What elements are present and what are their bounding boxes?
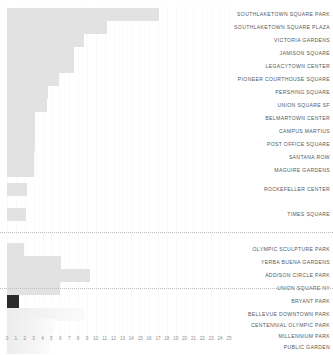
axis-tick-label: 11 — [102, 336, 107, 341]
section-separator-bottom — [0, 288, 333, 289]
plot-area — [7, 6, 229, 336]
axis-tick-label: 2 — [23, 336, 26, 341]
axis-tick-label: 4 — [41, 336, 44, 341]
axis-tick-label: 5 — [50, 336, 53, 341]
bar[interactable] — [7, 243, 24, 256]
axis-tick-label: 14 — [129, 336, 134, 341]
bar-label: YERBA BUENA GARDENS — [261, 256, 330, 269]
bar-label: BELMARTOWN CENTER — [265, 112, 330, 125]
bar[interactable] — [7, 151, 34, 164]
axis-tick-label: 15 — [138, 336, 143, 341]
table-row[interactable] — [7, 8, 229, 21]
bar-label: ADDISON CIRCLE PARK — [265, 269, 330, 282]
axis-tick-label: 16 — [147, 336, 152, 341]
axis-tick-label: 17 — [155, 336, 160, 341]
table-row[interactable] — [7, 208, 229, 221]
gridline — [229, 6, 230, 336]
bar[interactable] — [7, 295, 19, 308]
axis-tick-label: 22 — [200, 336, 205, 341]
axis-tick-label: 18 — [164, 336, 169, 341]
axis-tick-label: 0 — [6, 336, 9, 341]
bar-label: OLYMPIC SCULPTURE PARK — [253, 243, 330, 256]
bar[interactable] — [7, 99, 47, 112]
axis-tick-label: 23 — [209, 336, 214, 341]
table-row[interactable] — [7, 151, 229, 164]
bar-label: POST OFFICE SQUARE — [267, 138, 330, 151]
axis-tick-label: 20 — [182, 336, 187, 341]
bar[interactable] — [7, 34, 84, 47]
bar[interactable] — [7, 208, 26, 221]
bar[interactable] — [7, 269, 90, 282]
table-row[interactable] — [7, 183, 229, 196]
axis-tick-label: 10 — [93, 336, 98, 341]
table-row[interactable] — [7, 112, 229, 125]
table-row[interactable] — [7, 269, 229, 282]
bar-label: UNION SQUARE SF — [277, 99, 330, 112]
axis-tick-label: 9 — [86, 336, 89, 341]
horizontal-bar-chart: SOUTHLAKETOWN SQUARE PARKSOUTHLAKETOWN S… — [0, 0, 333, 355]
table-row[interactable] — [7, 60, 229, 73]
bar-label: PERSHING SQUARE — [275, 86, 330, 99]
bar-label: BRYANT PARK — [291, 295, 330, 308]
bar[interactable] — [7, 21, 107, 34]
table-row[interactable] — [7, 243, 229, 256]
bar[interactable] — [7, 125, 35, 138]
category-labels: SOUTHLAKETOWN SQUARE PARKSOUTHLAKETOWN S… — [233, 6, 331, 336]
bar-label: ROCKEFELLER CENTER — [264, 183, 330, 196]
section-separator-top — [0, 232, 333, 233]
bar[interactable] — [7, 183, 27, 196]
bar[interactable] — [7, 112, 35, 125]
bar[interactable] — [7, 47, 74, 60]
bar[interactable] — [7, 138, 35, 151]
table-row[interactable] — [7, 99, 229, 112]
bar-label: TIMES SQUARE — [287, 208, 330, 221]
axis-tick-label: 25 — [226, 336, 231, 341]
axis-tick-label: 12 — [111, 336, 116, 341]
bar-label: CAMPUS MARTIUS — [279, 125, 330, 138]
bar[interactable] — [7, 8, 159, 21]
axis-tick-label: 24 — [218, 336, 223, 341]
bar-label: PIONEER COURTHOUSE SQUARE — [238, 73, 330, 86]
bar-label: VICTORIA GARDENS — [274, 34, 330, 47]
axis-tick-label: 6 — [59, 336, 62, 341]
axis-tick-label: 7 — [68, 336, 71, 341]
axis-tick-label: 8 — [77, 336, 80, 341]
table-row[interactable] — [7, 125, 229, 138]
bar-label: MAGUIRE GARDENS — [274, 164, 330, 177]
bar-label: SOUTHLAKETOWN SQUARE PARK — [237, 8, 330, 21]
bar[interactable] — [7, 86, 48, 99]
bar-label: SANTANA ROW — [289, 151, 330, 164]
bar-label: JAMISON SQUARE — [280, 47, 330, 60]
bar-label: PUBLIC GARDEN — [284, 341, 330, 354]
bar-label: LEGACYTOWN CENTER — [266, 60, 330, 73]
table-row[interactable] — [7, 256, 229, 269]
axis-tick-label: 21 — [191, 336, 196, 341]
bar[interactable] — [7, 164, 34, 177]
axis-tick-label: 3 — [32, 336, 35, 341]
table-row[interactable] — [7, 21, 229, 34]
bar[interactable] — [7, 73, 59, 86]
table-row[interactable] — [7, 73, 229, 86]
bar[interactable] — [7, 256, 61, 269]
x-axis: 0123456789101112131415161718192021222324… — [7, 336, 229, 350]
bar[interactable] — [7, 60, 74, 73]
bar-label: SOUTHLAKETOWN SQUARE PLAZA — [234, 21, 330, 34]
axis-tick-label: 13 — [120, 336, 125, 341]
table-row[interactable] — [7, 86, 229, 99]
axis-tick-label: 1 — [15, 336, 18, 341]
table-row[interactable] — [7, 34, 229, 47]
table-row[interactable] — [7, 47, 229, 60]
table-row[interactable] — [7, 164, 229, 177]
axis-tick-label: 19 — [173, 336, 178, 341]
table-row[interactable] — [7, 138, 229, 151]
table-row[interactable] — [7, 295, 229, 308]
bar-rows — [7, 6, 229, 336]
